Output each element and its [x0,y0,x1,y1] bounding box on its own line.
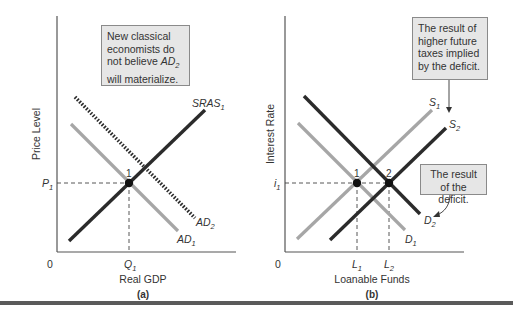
panel-a-equilibrium-point [125,179,133,187]
panel-b-equilibrium-1-label: 1 [354,168,360,179]
note-line: not believe AD2 [107,55,184,73]
new-classical-note: New classical economists do not believe … [101,25,190,86]
d1-label: D1 [405,233,417,248]
panel-a-caption: (a) [137,289,149,300]
note-line: of the deficit. [424,181,483,206]
panel-a-x-axis-label: Real GDP [119,273,166,285]
panel-b-equilibrium-2-point [385,179,393,187]
sras-label: SRAS1 [192,97,225,112]
note-line: economists do [107,43,184,56]
note-line: higher future [418,35,482,48]
ad1-label: AD1 [176,233,196,248]
ad2-curve [75,97,195,218]
l2-tick-label: L2 [384,258,395,273]
note-line: will materialize. [107,73,184,86]
s1-label: S1 [429,96,440,111]
ad2-label: AD2 [195,216,216,231]
panel-b-y-axis-label: Interest Rate [264,104,276,164]
sras-curve [69,110,205,241]
p1-tick-label: P1 [42,177,53,192]
note-line: New classical [107,30,184,43]
ad1-curve [71,124,178,231]
future-taxes-note: The result of higher future taxes implie… [412,17,488,80]
panel-b-equilibrium-1-point [353,179,361,187]
l1-tick-label: L1 [352,258,362,273]
note-line: taxes implied [418,47,482,60]
note-line: The result of [418,22,482,35]
i1-tick-label: i1 [274,177,281,192]
d2-curve [304,96,420,214]
panel-b-caption: (b) [366,289,379,300]
panel-a-origin-label: 0 [47,258,53,270]
deficit-arrow-head-icon [433,211,440,217]
panel-a-y-axis-label: Price Level [30,108,42,160]
s1-curve [297,110,432,239]
q1-tick-label: Q1 [124,258,136,273]
s2-label: S2 [449,118,461,133]
panel-b-origin-label: 0 [275,258,281,270]
taxes-arrow-head-icon [446,107,452,113]
panel-b-equilibrium-2-label: 2 [386,168,392,179]
deficit-note: The result of the deficit. [420,164,487,195]
note-line: by the deficit. [418,60,482,73]
note-line: The result [424,168,483,181]
panel-b-x-axis-label: Loanable Funds [334,273,409,285]
bottom-divider [0,301,513,305]
panel-a-equilibrium-label: 1 [126,168,132,179]
